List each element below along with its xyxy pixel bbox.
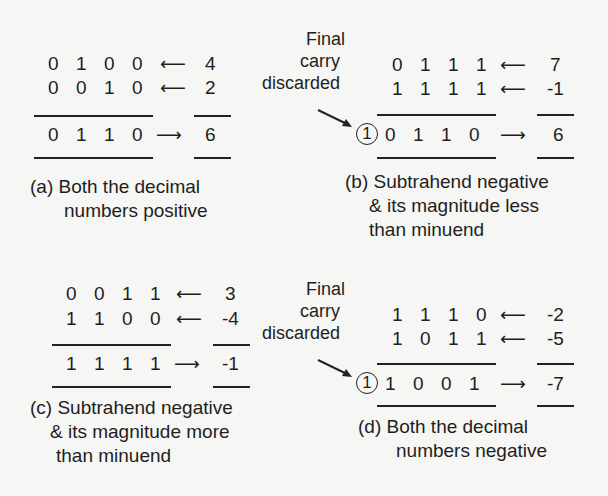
left-arrow-icon: ⟵ <box>500 78 526 100</box>
result-decimal-rule <box>537 405 574 407</box>
subtrahend-bits: 1100 <box>66 308 178 330</box>
bit: 0 <box>420 328 448 350</box>
bit: 1 <box>122 283 150 305</box>
bit: 1 <box>413 124 441 146</box>
left-arrow-icon: ⟵ <box>160 53 186 75</box>
result-bits: 0110 <box>48 124 160 146</box>
bit: 1 <box>76 53 104 75</box>
note-line: Final <box>262 278 345 300</box>
bit: 0 <box>132 53 160 75</box>
left-arrow-icon: ⟵ <box>500 54 526 76</box>
sum-rule <box>377 363 496 365</box>
minuend-decimal: -2 <box>547 304 564 326</box>
bit: 0 <box>48 77 76 99</box>
minuend-decimal: 7 <box>550 54 561 76</box>
note-line: discarded <box>262 322 345 344</box>
bit: 0 <box>413 373 441 395</box>
caption-line: & its magnitude more <box>30 420 233 444</box>
bit: 1 <box>94 353 122 375</box>
caption-line: (c) Subtrahend negative <box>30 396 233 420</box>
sum-rule <box>377 114 496 116</box>
result-decimal-rule <box>537 157 574 159</box>
note-line: carry <box>262 50 345 72</box>
result-rule <box>34 157 153 159</box>
subtrahend-decimal: -4 <box>222 308 239 330</box>
minuend-decimal: 4 <box>205 53 216 75</box>
bit: 1 <box>448 54 476 76</box>
minuend-bits: 0111 <box>392 54 504 76</box>
bit: 1 <box>150 283 178 305</box>
bit: 1 <box>420 304 448 326</box>
caption: (c) Subtrahend negative & its magnitude … <box>30 396 233 468</box>
subtrahend-decimal: 2 <box>205 77 216 99</box>
caption: (b) Subtrahend negative & its magnitude … <box>345 170 549 242</box>
decimal-rule <box>194 115 231 117</box>
carry-note: Final carry discarded <box>262 28 345 94</box>
caption-line: (a) Both the decimal <box>30 175 208 199</box>
caption-line: numbers positive <box>30 199 208 223</box>
caption-line: than minuend <box>30 444 233 468</box>
note-line: carry <box>262 300 345 322</box>
bit: 1 <box>448 304 476 326</box>
bit: 0 <box>48 124 76 146</box>
sum-rule <box>52 344 171 346</box>
result-bits: 1111 <box>66 353 178 375</box>
bit: 1 <box>420 78 448 100</box>
note-line: Final <box>262 28 345 50</box>
bit: 1 <box>104 124 132 146</box>
discarded-carry-circle: 1 <box>356 372 378 394</box>
decimal-rule <box>537 363 574 365</box>
result-decimal: 6 <box>205 124 216 146</box>
caption: (a) Both the decimal numbers positive <box>30 175 208 223</box>
bit: 1 <box>469 373 497 395</box>
carry-note: Final carry discarded <box>262 278 345 344</box>
left-arrow-icon: ⟵ <box>500 328 526 350</box>
right-arrow-icon: ⟶ <box>500 373 526 395</box>
bit: 0 <box>104 53 132 75</box>
bit: 1 <box>66 308 94 330</box>
sum-rule <box>34 115 153 117</box>
caption-line: & its magnitude less <box>345 194 549 218</box>
pointer-arrow-icon <box>318 108 358 130</box>
decimal-rule <box>213 344 250 346</box>
subtrahend-decimal: -5 <box>547 328 564 350</box>
right-arrow-icon: ⟶ <box>500 124 526 146</box>
bit: 0 <box>392 54 420 76</box>
result-decimal-rule <box>213 386 250 388</box>
bit: 0 <box>76 77 104 99</box>
bit: 1 <box>448 78 476 100</box>
bit: 1 <box>392 78 420 100</box>
bit: 1 <box>392 328 420 350</box>
result-decimal: -1 <box>222 353 239 375</box>
result-rule <box>377 405 496 407</box>
bit: 1 <box>392 304 420 326</box>
bit: 0 <box>122 308 150 330</box>
minuend-bits: 0011 <box>66 283 178 305</box>
minuend-decimal: 3 <box>225 283 236 305</box>
bit: 0 <box>441 373 469 395</box>
bit: 1 <box>122 353 150 375</box>
caption-line: (d) Both the decimal <box>358 415 547 439</box>
caption-line: numbers negative <box>358 439 547 463</box>
left-arrow-icon: ⟵ <box>176 283 202 305</box>
caption-line: than minuend <box>345 218 549 242</box>
bit: 0 <box>132 77 160 99</box>
note-line: discarded <box>262 72 345 94</box>
bit: 1 <box>385 373 413 395</box>
result-decimal-rule <box>194 157 231 159</box>
bit: 0 <box>66 283 94 305</box>
result-bits: 1001 <box>385 373 497 395</box>
left-arrow-icon: ⟵ <box>160 77 186 99</box>
result-rule <box>52 386 171 388</box>
pointer-arrow-icon <box>318 358 358 380</box>
result-bits: 0110 <box>385 124 497 146</box>
caption: (d) Both the decimal numbers negative <box>358 415 547 463</box>
bit: 0 <box>48 53 76 75</box>
caption-line: (b) Subtrahend negative <box>345 170 549 194</box>
subtrahend-decimal: -1 <box>547 78 564 100</box>
result-decimal: -7 <box>547 373 564 395</box>
result-decimal: 6 <box>553 124 564 146</box>
left-arrow-icon: ⟵ <box>500 304 526 326</box>
minuend-bits: 0100 <box>48 53 160 75</box>
bit: 1 <box>104 77 132 99</box>
